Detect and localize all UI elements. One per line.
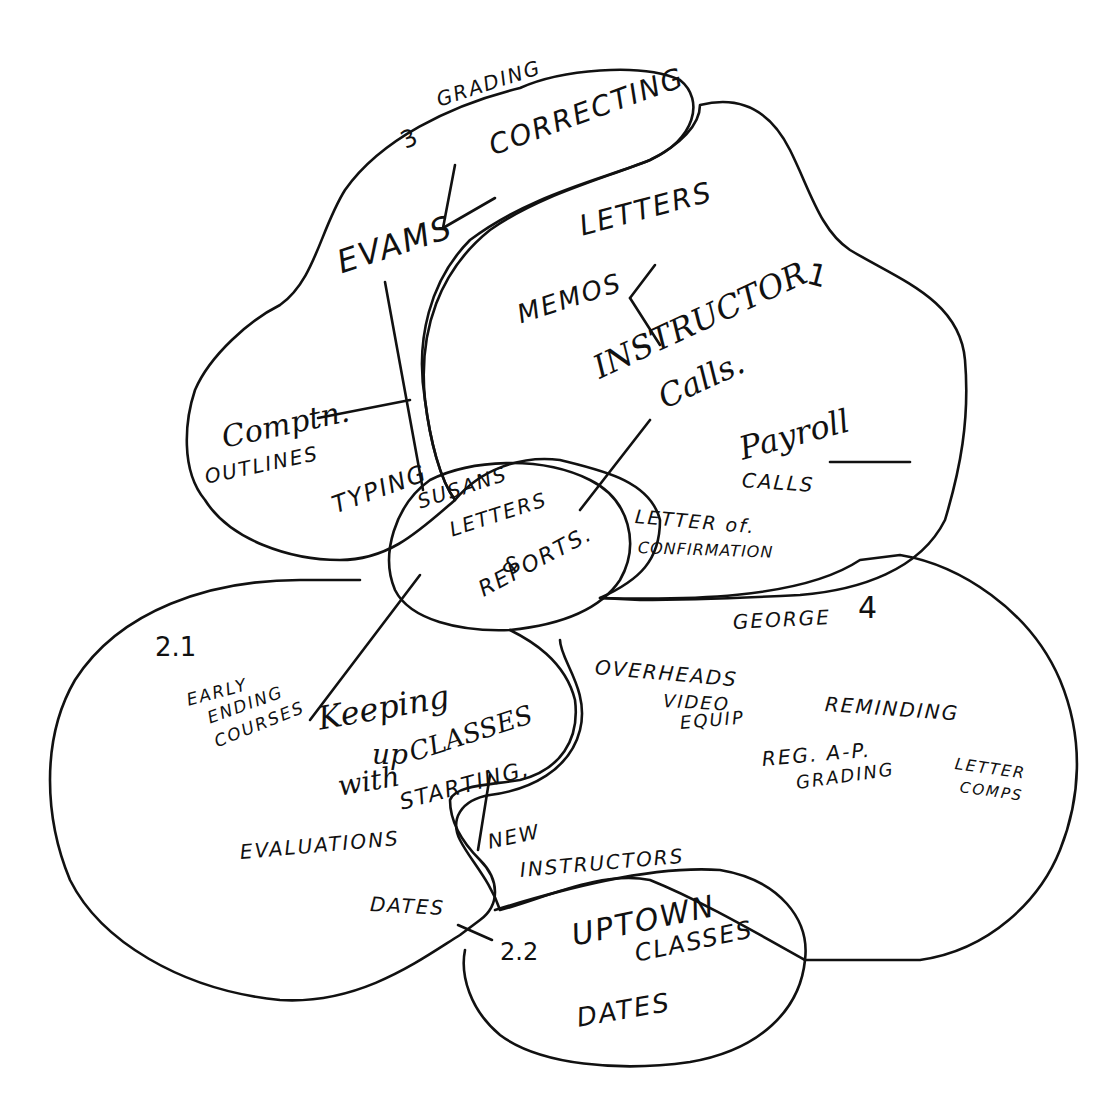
- region-4-george: GEORGE: [732, 605, 831, 634]
- connector-evams-typing: [385, 282, 423, 490]
- mind-map-canvas: 3 GRADING CORRECTING EVAMS Comptn. OUTLI…: [0, 0, 1119, 1111]
- connector-instructor-center: [580, 420, 650, 510]
- region-4-number: 4: [858, 590, 877, 625]
- region-2-1-number: 2.1: [155, 632, 196, 662]
- region-2-1-dates: DATES: [369, 892, 445, 920]
- region-1-payroll-calls: CALLS: [741, 468, 815, 497]
- region-2-1-outline: [50, 580, 576, 1000]
- region-2-2-number: 2.2: [500, 938, 538, 966]
- region-2-2-outline: [464, 869, 806, 1066]
- connector-letters-memos: [630, 265, 655, 298]
